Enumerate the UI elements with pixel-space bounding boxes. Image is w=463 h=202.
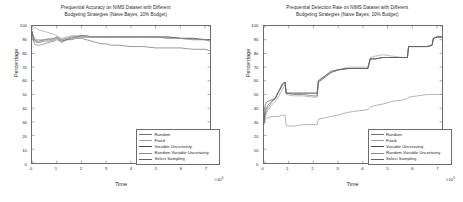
y-tick-label: 90: [235, 37, 259, 42]
y-axis-label: Percentage: [245, 23, 251, 103]
series-line: [264, 37, 442, 123]
x-multiplier-exponent: 5: [222, 176, 224, 180]
y-tick-label: 80: [3, 51, 27, 56]
page-title: Prequential Detection Rate on NIMS Datas…: [232, 5, 463, 18]
y-axis-label: Percentage: [13, 23, 19, 103]
series-line: [264, 37, 442, 122]
x-axis-label: Time: [263, 181, 443, 187]
x-tick-label: 5: [150, 166, 162, 171]
y-tick-label: 70: [3, 65, 27, 70]
legend-line-icon: [371, 134, 384, 135]
y-tick-label: 60: [3, 78, 27, 83]
y-tick-label: 40: [235, 106, 259, 111]
page-title: Prequential Accuracy on NIMS Dataset wit…: [0, 5, 232, 18]
x-tick-label: 2: [307, 166, 319, 171]
x-axis-multiplier: ×105: [446, 176, 455, 182]
y-tick-label: 90: [3, 37, 27, 42]
y-tick-label: 10: [235, 148, 259, 153]
y-tick-label: 30: [235, 120, 259, 125]
x-tick-label: 4: [125, 166, 137, 171]
legend-accuracy: Random Fixed Variable Uncertainty Random…: [136, 129, 220, 165]
y-tick-label: 20: [235, 134, 259, 139]
x-tick-label: 6: [175, 166, 187, 171]
y-tick-label: 10: [3, 148, 27, 153]
x-tick-label: 4: [357, 166, 369, 171]
legend-line-icon: [139, 146, 152, 147]
x-tick-label: 7: [432, 166, 444, 171]
y-tick-label: 0: [235, 162, 259, 167]
x-tick-label: 2: [75, 166, 87, 171]
x-axis-label: Time: [31, 181, 211, 187]
x-tick-label: 3: [332, 166, 344, 171]
legend-line-icon: [139, 140, 152, 141]
legend-line-icon: [371, 140, 384, 141]
x-tick-label: 7: [200, 166, 212, 171]
legend-label: Select Sampling: [155, 156, 185, 162]
legend-line-icon: [371, 153, 384, 154]
x-tick-label: 0: [25, 166, 37, 171]
legend-line-icon: [139, 134, 152, 135]
y-tick-label: 50: [235, 92, 259, 97]
panel-accuracy: Prequential Accuracy on NIMS Dataset wit…: [0, 0, 232, 202]
y-tick-label: 100: [3, 23, 27, 28]
y-tick-label: 30: [3, 120, 27, 125]
x-tick-label: 3: [100, 166, 112, 171]
y-tick-label: 100: [235, 23, 259, 28]
y-tick-label: 20: [3, 134, 27, 139]
y-tick-label: 40: [3, 106, 27, 111]
series-line: [264, 37, 442, 122]
x-multiplier-base: ×10: [214, 177, 221, 182]
y-tick-label: 50: [3, 92, 27, 97]
legend-item: Select Sampling: [371, 156, 449, 162]
x-tick-label: 1: [50, 166, 62, 171]
x-tick-label: 6: [407, 166, 419, 171]
y-tick-label: 60: [235, 78, 259, 83]
figure-container: Prequential Accuracy on NIMS Dataset wit…: [0, 0, 463, 202]
x-tick-label: 1: [282, 166, 294, 171]
y-tick-label: 0: [3, 162, 27, 167]
y-tick-label: 70: [235, 65, 259, 70]
x-tick-label: 0: [257, 166, 269, 171]
x-multiplier-exponent: 5: [453, 176, 455, 180]
series-line: [264, 37, 442, 121]
panel-detection: Prequential Detection Rate on NIMS Datas…: [232, 0, 463, 202]
y-tick-label: 80: [235, 51, 259, 56]
x-axis-multiplier: ×105: [214, 176, 223, 182]
legend-detection: Random Fixed Variable Uncertainty Random…: [368, 129, 452, 165]
legend-line-icon: [371, 159, 384, 160]
legend-item: Select Sampling: [139, 156, 217, 162]
legend-line-icon: [139, 159, 152, 160]
x-tick-label: 5: [382, 166, 394, 171]
legend-line-icon: [371, 146, 384, 147]
legend-label: Select Sampling: [386, 156, 416, 162]
legend-line-icon: [139, 153, 152, 154]
series-line: [264, 95, 442, 127]
